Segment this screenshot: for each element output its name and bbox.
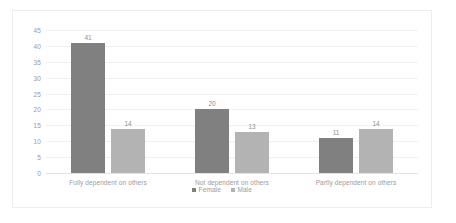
y-axis-tick-label: 0 (37, 170, 41, 177)
y-axis-tick-label: 40 (34, 42, 41, 49)
bar-value-label: 14 (372, 120, 379, 127)
y-axis-tick-label: 5 (37, 154, 41, 161)
bar-group: 1114Partly dependent on others (294, 30, 418, 173)
bar-female[interactable]: 11 (319, 138, 353, 173)
y-axis-tick-label: 35 (34, 58, 41, 65)
y-axis-tick-label: 15 (34, 122, 41, 129)
y-axis-tick-label: 10 (34, 138, 41, 145)
legend-label: Male (237, 186, 252, 193)
y-axis-tick-label: 30 (34, 74, 41, 81)
legend-item-male[interactable]: Male (231, 186, 252, 193)
bar-group: 2013Not dependent on others (170, 30, 294, 173)
y-axis-tick-label: 45 (34, 27, 41, 34)
x-axis-category-label: Not dependent on others (195, 179, 269, 186)
bar-male[interactable]: 13 (235, 132, 269, 173)
x-axis-category-label: Partly dependent on others (316, 179, 397, 186)
legend-item-female[interactable]: Female (192, 186, 221, 193)
x-axis-line (46, 173, 418, 174)
bar-value-label: 41 (84, 34, 91, 41)
bar-male[interactable]: 14 (111, 129, 145, 173)
bar-female[interactable]: 41 (71, 43, 105, 173)
x-axis-category-label: Fully dependent on others (69, 179, 147, 186)
legend-swatch-icon (231, 188, 235, 192)
bar-value-label: 14 (124, 120, 131, 127)
bar-value-label: 13 (248, 123, 255, 130)
y-axis-tick-label: 20 (34, 106, 41, 113)
y-axis-tick-label: 25 (34, 90, 41, 97)
bar-male[interactable]: 14 (359, 129, 393, 173)
bar-female[interactable]: 20 (195, 109, 229, 173)
legend-label: Female (199, 186, 221, 193)
bar-chart-figure: 0510152025303540454114Fully dependent on… (12, 10, 432, 208)
bar-value-label: 11 (333, 129, 340, 136)
legend-swatch-icon (192, 188, 196, 192)
plot-area: 0510152025303540454114Fully dependent on… (46, 30, 418, 173)
bar-value-label: 20 (208, 100, 215, 107)
bar-group: 4114Fully dependent on others (46, 30, 170, 173)
chart-legend: FemaleMale (13, 186, 431, 193)
